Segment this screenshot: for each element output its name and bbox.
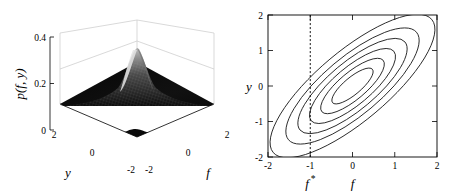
contour-plot-panel: -2 -1 0 1 2 2 1 0 -1 -2 y f f * — [240, 0, 455, 196]
surface-y-axis: 2 0 -2 y — [52, 130, 136, 180]
contour-x-ticks — [268, 15, 437, 157]
contour-level-3 — [299, 37, 406, 135]
contour-y-ticks — [268, 15, 437, 157]
surface-y-axis-label: y — [63, 165, 71, 180]
contour-x-tick-labels: -2 -1 0 1 2 — [264, 161, 440, 171]
f-star-label-group: f * — [305, 174, 315, 191]
y-tick-label-2: 2 — [52, 130, 57, 140]
contour-x-axis-label: f — [351, 176, 357, 191]
surface-z-axis: 0.4 0.2 0 — [34, 33, 54, 136]
contour-level-5 — [270, 10, 435, 162]
contour-x-tick--2: -2 — [264, 161, 272, 171]
contour-y-tick-1: 1 — [258, 46, 263, 56]
contour-level-4 — [285, 24, 420, 148]
contour-x-tick-2: 2 — [435, 161, 440, 171]
contour-level-2 — [313, 50, 392, 122]
y-tick-label-neg2: -2 — [127, 165, 135, 175]
surface-f-axis-label: f — [206, 165, 212, 180]
f-tick-label-2: 2 — [225, 130, 230, 140]
contour-x-tick-1: 1 — [392, 161, 397, 171]
z-axis-label: p(f, y) — [12, 68, 27, 100]
surface-f-axis: -2 0 2 f — [145, 130, 230, 180]
contour-y-tick--2: -2 — [255, 153, 263, 163]
contour-y-tick--1: -1 — [255, 117, 263, 127]
contour-y-tick-2: 2 — [258, 11, 263, 21]
contour-plot-svg: -2 -1 0 1 2 2 1 0 -1 -2 y f f * — [240, 0, 455, 196]
contour-plot-box — [268, 15, 437, 157]
z-axis-label-group: p(f, y) — [12, 68, 27, 100]
figure-container: 0.4 0.2 0 p(f, y) — [0, 0, 455, 196]
y-tick-label-0: 0 — [90, 148, 95, 158]
contour-x-tick-0: 0 — [350, 161, 355, 171]
contour-y-axis-label: y — [244, 79, 252, 94]
contour-x-tick--1: -1 — [306, 161, 314, 171]
surface-mesh — [60, 48, 214, 137]
z-tick-label-0.2: 0.2 — [34, 79, 46, 89]
f-tick-label-0: 0 — [186, 148, 191, 158]
contour-y-tick-0: 0 — [258, 82, 263, 92]
f-star-superscript: * — [311, 174, 316, 184]
f-tick-label-neg2: -2 — [145, 165, 153, 175]
surface-plot-svg: 0.4 0.2 0 p(f, y) — [0, 0, 240, 196]
z-tick-label-0: 0 — [41, 126, 46, 136]
z-tick-label-0.4: 0.4 — [34, 33, 46, 43]
surface-plot-panel: 0.4 0.2 0 p(f, y) — [0, 0, 240, 196]
contour-y-tick-labels: 2 1 0 -1 -2 — [255, 11, 263, 163]
